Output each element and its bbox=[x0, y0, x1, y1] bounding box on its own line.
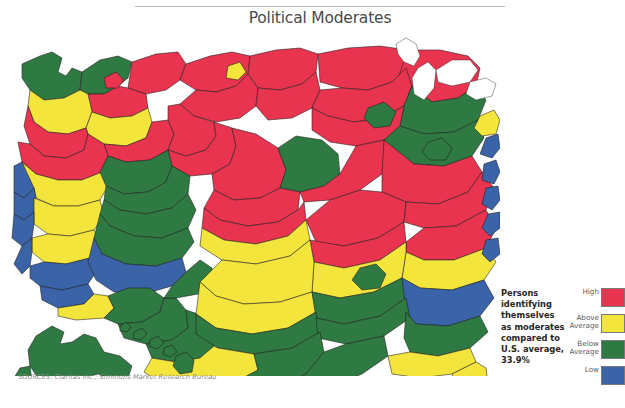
legend-caption-line-1: Persons identifying bbox=[501, 288, 565, 310]
legend-item-high[interactable]: High bbox=[567, 288, 625, 307]
legend-swatch-high bbox=[601, 288, 625, 307]
legend-caption-line-2: themselves bbox=[501, 310, 565, 321]
legend-swatch-above-average bbox=[601, 314, 625, 333]
legend-label-low: Low bbox=[567, 366, 599, 374]
us-county-choropleth-svg bbox=[0, 16, 500, 376]
legend-label-high: High bbox=[567, 288, 599, 296]
map-legend: Persons identifying themselves as modera… bbox=[501, 288, 625, 388]
legend-caption-line-6: 33.9% bbox=[501, 355, 565, 366]
legend-caption: Persons identifying themselves as modera… bbox=[501, 288, 565, 366]
legend-caption-line-5: U.S. average, bbox=[501, 344, 565, 355]
choropleth-map bbox=[0, 16, 500, 376]
legend-caption-line-4: compared to bbox=[501, 333, 565, 344]
legend-swatch-low bbox=[601, 366, 625, 385]
sources-label: SOURCES: bbox=[18, 373, 52, 381]
legend-caption-line-3: as moderates bbox=[501, 322, 565, 333]
sources-body: Claritas Inc.; Simmons Market Research B… bbox=[55, 373, 217, 381]
legend-label-above-average: Above Average bbox=[567, 314, 599, 330]
legend-label-below-average: Below Average bbox=[567, 340, 599, 356]
legend-swatch-below-average bbox=[601, 340, 625, 359]
map-figure: Political Moderates bbox=[0, 0, 625, 408]
legend-item-above-average[interactable]: Above Average bbox=[567, 314, 625, 333]
sources-note: SOURCES: Claritas Inc.; Simmons Market R… bbox=[18, 373, 217, 381]
legend-item-low[interactable]: Low bbox=[567, 366, 625, 385]
title-divider-rule bbox=[135, 6, 505, 7]
legend-item-below-average[interactable]: Below Average bbox=[567, 340, 625, 359]
